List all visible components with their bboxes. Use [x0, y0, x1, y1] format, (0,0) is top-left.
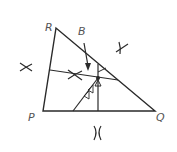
label-r: R — [45, 21, 53, 34]
arrow-b-head-icon — [85, 63, 91, 71]
triangle-pqr — [43, 28, 155, 111]
triangle-construction-diagram: R P Q B — [0, 0, 177, 152]
intersection-point — [96, 76, 100, 80]
label-q: Q — [156, 111, 165, 124]
arc-mark-bottom-2 — [99, 126, 101, 140]
angle-mark — [98, 68, 106, 72]
arc-marks — [20, 42, 128, 140]
label-b: B — [78, 25, 86, 38]
arc-mark-right-1 — [116, 44, 128, 52]
arc-mark-right-2 — [119, 42, 120, 54]
label-p: P — [28, 111, 35, 124]
arc-mark-bottom-1 — [94, 126, 96, 140]
